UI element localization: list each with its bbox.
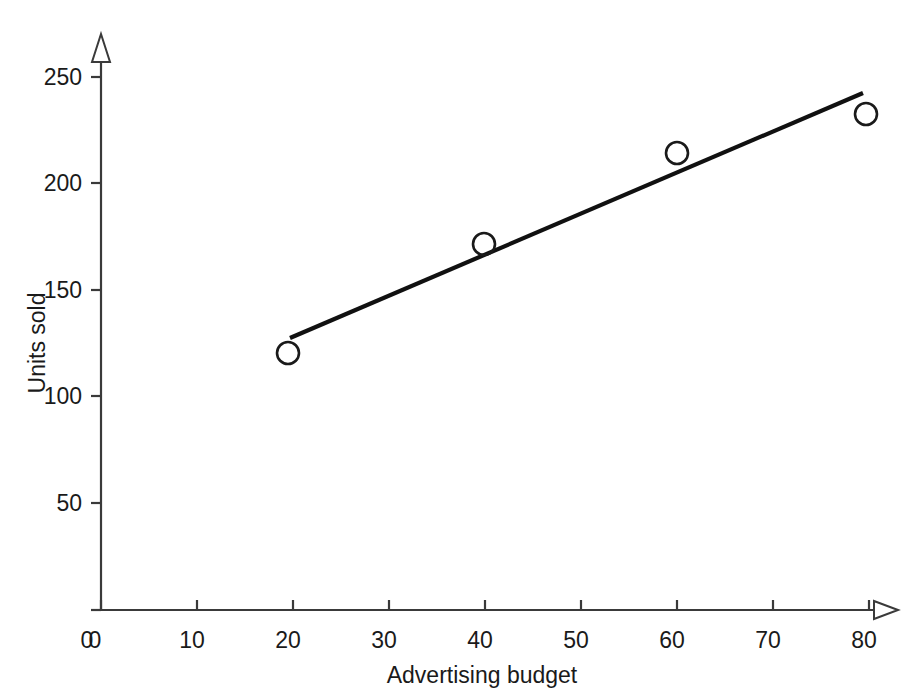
x-tick-label-70: 70	[755, 627, 781, 653]
y-tick-label-50: 50	[56, 490, 82, 516]
y-tick-label-200: 200	[44, 170, 82, 196]
data-points-group	[277, 103, 877, 364]
regression-line	[290, 93, 863, 338]
y-axis-group: 250 200 150 100 50 0 Units sold	[24, 34, 110, 653]
x-tick-label-80: 80	[851, 627, 877, 653]
x-tick-label-60: 60	[659, 627, 685, 653]
x-axis-group: 0 10 20 30 40 50 60 70 80 Advertising bu…	[81, 600, 898, 688]
y-tick-label-250: 250	[44, 64, 82, 90]
plot-area: 250 200 150 100 50 0 Units sold 0 1	[0, 0, 917, 696]
x-tick-label-30: 30	[371, 627, 397, 653]
data-point-marker[interactable]	[473, 233, 495, 255]
x-tick-label-0: 0	[81, 627, 94, 653]
y-axis-title: Units sold	[24, 293, 50, 394]
arrow-up-open-triangle-icon	[92, 34, 110, 62]
x-tick-label-10: 10	[179, 627, 205, 653]
data-point-marker[interactable]	[666, 142, 688, 164]
x-tick-label-20: 20	[275, 627, 301, 653]
data-point-marker[interactable]	[855, 103, 877, 125]
page-scan-artifact	[0, 682, 917, 696]
data-point-marker[interactable]	[277, 342, 299, 364]
x-tick-label-40: 40	[467, 627, 493, 653]
x-tick-label-50: 50	[563, 627, 589, 653]
arrow-right-open-triangle-icon	[874, 601, 898, 619]
scatter-chart-figure: 250 200 150 100 50 0 Units sold 0 1	[0, 0, 917, 696]
